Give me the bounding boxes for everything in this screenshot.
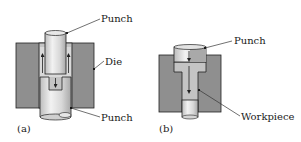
leader-bottom-punch-a <box>71 108 100 117</box>
panel-a: Punch Die Punch (a) <box>16 13 133 134</box>
label-die-a: Die <box>105 56 122 67</box>
top-punch-a <box>45 31 66 75</box>
label-workpiece-b: Workpiece <box>241 111 295 122</box>
leader-top-punch-a <box>67 19 100 33</box>
caption-b: (b) <box>159 123 173 134</box>
label-bottom-punch-a: Punch <box>101 112 133 123</box>
extruded-rod-b <box>182 100 198 119</box>
label-top-punch-a: Punch <box>101 13 133 24</box>
caption-a: (a) <box>17 123 31 134</box>
punch-b <box>174 45 206 63</box>
leader-die-a <box>94 61 104 69</box>
label-punch-b: Punch <box>234 35 266 46</box>
leader-punch-b <box>205 41 232 48</box>
panel-b: Punch Workpiece (b) <box>159 35 295 134</box>
extrusion-diagram: Punch Die Punch (a) Pu <box>0 0 301 142</box>
